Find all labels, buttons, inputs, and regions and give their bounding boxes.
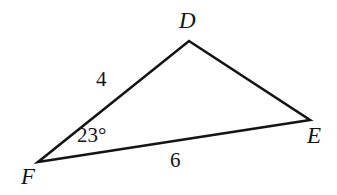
vertex-label-e: E xyxy=(307,124,321,147)
side-length-label-fe: 6 xyxy=(170,150,181,171)
vertex-label-d: D xyxy=(179,9,196,32)
triangle-diagram: D E F 4 6 23° xyxy=(0,0,337,195)
vertex-label-f: F xyxy=(21,165,35,188)
side-length-label-df: 4 xyxy=(96,69,107,90)
triangle-outline xyxy=(0,0,337,195)
angle-measure-label-f: 23° xyxy=(77,125,106,146)
